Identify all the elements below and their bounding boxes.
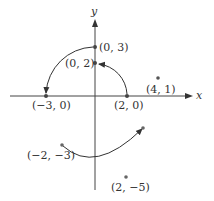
label-m2-m3: (−2, −3): [27, 149, 75, 162]
label-2-0: (2, 0): [114, 99, 144, 112]
label-m3-0: (−3, 0): [32, 99, 71, 112]
point-m2-m3: [60, 143, 64, 147]
rotation-arc-0-3-to-m3-0: [46, 47, 93, 93]
label-0-2: (0, 2): [65, 57, 95, 70]
label-2-m5: (2, −5): [111, 181, 150, 194]
x-axis-label: x: [196, 89, 203, 102]
label-0-3: (0, 3): [99, 41, 129, 54]
point-0-3: [93, 45, 97, 49]
rotation-arc-2-0-to-0-2: [99, 64, 127, 94]
y-axis: [92, 19, 98, 190]
point-m3-0: [44, 94, 48, 98]
point-4-1: [156, 76, 160, 80]
point-3-m2: [141, 126, 145, 130]
y-axis-label: y: [90, 5, 98, 18]
point-2-0: [125, 94, 129, 98]
y-axis-arrow-icon: [92, 19, 98, 27]
point-2-m5: [124, 175, 128, 179]
x-axis-arrow-icon: [185, 93, 193, 99]
coordinate-plane: x y (0, 3) (0, 2) (−3, 0) (2, 0) (4, 1) …: [0, 0, 214, 201]
label-4-1: (4, 1): [146, 83, 176, 96]
